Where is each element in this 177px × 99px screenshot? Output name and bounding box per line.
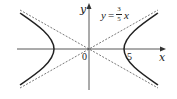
fraction-denominator: 5 bbox=[117, 16, 121, 23]
fraction-numerator: 3 bbox=[117, 6, 121, 13]
origin-label: 0 bbox=[82, 52, 87, 62]
equation-equals: = bbox=[108, 9, 114, 21]
vertex-label: 5 bbox=[127, 52, 132, 62]
asymptote-equation: y = 3 5 x bbox=[101, 6, 129, 23]
equation-lhs: y bbox=[101, 9, 106, 21]
hyperbola-graph bbox=[0, 0, 177, 99]
equation-variable: x bbox=[124, 9, 129, 21]
y-axis-arrow bbox=[87, 3, 92, 9]
equation-fraction: 3 5 bbox=[116, 6, 122, 23]
y-axis-label: y bbox=[80, 4, 86, 15]
x-axis-label: x bbox=[159, 52, 165, 63]
